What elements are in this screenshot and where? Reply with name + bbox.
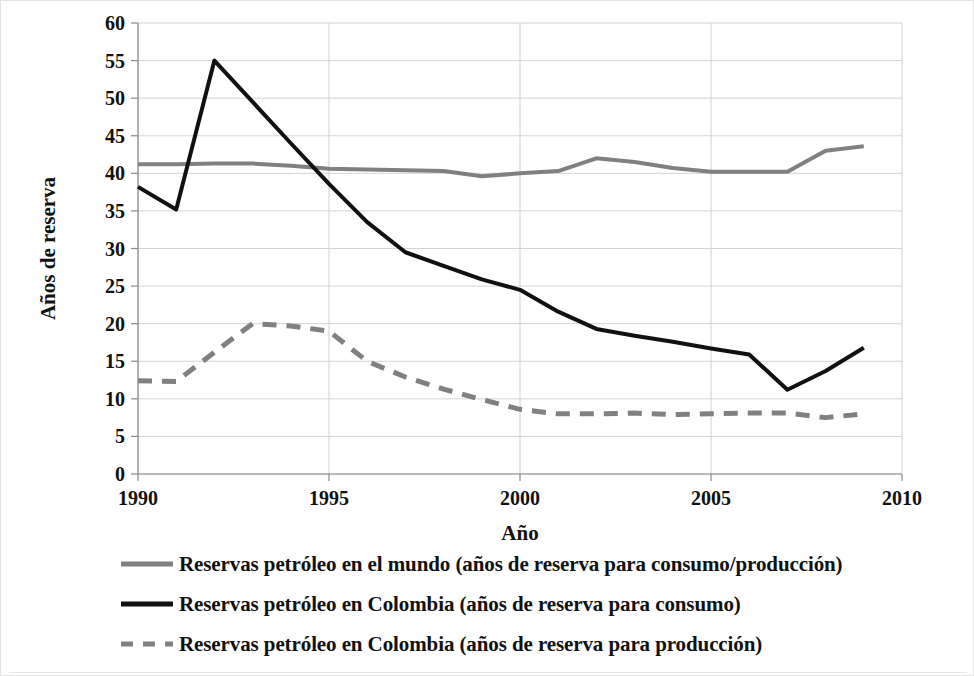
- x-tick-label: 1995: [309, 487, 349, 509]
- x-axis-tick-labels: 19901995200020052010: [118, 487, 922, 509]
- y-tick-label: 5: [115, 425, 125, 447]
- legend-item-colombia-consumo[interactable]: Reservas petróleo en Colombia (años de r…: [119, 584, 974, 624]
- line-chart-svg: 051015202530354045505560 199019952000200…: [1, 1, 974, 546]
- y-tick-label: 50: [105, 87, 125, 109]
- x-tick-label: 2000: [500, 487, 540, 509]
- series-line-0: [138, 146, 864, 176]
- legend-item-colombia-produccion[interactable]: Reservas petróleo en Colombia (años de r…: [119, 624, 974, 664]
- y-tick-label: 40: [105, 162, 125, 184]
- y-tick-label: 10: [105, 388, 125, 410]
- legend-label-colombia-consumo: Reservas petróleo en Colombia (años de r…: [179, 592, 741, 617]
- legend-key-solid-gray-icon: [119, 553, 175, 575]
- footer-divider: [9, 672, 967, 673]
- y-axis-title: Años de reserva: [36, 176, 60, 320]
- legend-key-dashed-gray-icon: [119, 633, 175, 655]
- y-tick-label: 25: [105, 275, 125, 297]
- plot-area: 051015202530354045505560 199019952000200…: [1, 1, 974, 546]
- y-tick-label: 35: [105, 200, 125, 222]
- y-tick-label: 15: [105, 350, 125, 372]
- chart-legend: Reservas petróleo en el mundo (años de r…: [1, 544, 974, 676]
- x-axis-title: Año: [501, 521, 538, 545]
- x-tick-label: 1990: [118, 487, 158, 509]
- y-tick-label: 60: [105, 12, 125, 34]
- y-axis-tick-labels: 051015202530354045505560: [105, 12, 125, 485]
- y-tick-label: 20: [105, 313, 125, 335]
- x-tick-label: 2010: [882, 487, 922, 509]
- series-line-2: [138, 324, 864, 418]
- y-axis-ticks: [131, 23, 138, 474]
- y-tick-label: 45: [105, 125, 125, 147]
- y-tick-label: 30: [105, 238, 125, 260]
- legend-label-colombia-produccion: Reservas petróleo en Colombia (años de r…: [179, 632, 762, 657]
- grid-lines: [138, 23, 902, 474]
- y-tick-label: 55: [105, 50, 125, 72]
- chart-figure: 051015202530354045505560 199019952000200…: [0, 0, 974, 676]
- y-tick-label: 0: [115, 463, 125, 485]
- legend-label-world: Reservas petróleo en el mundo (años de r…: [179, 552, 843, 577]
- legend-item-world[interactable]: Reservas petróleo en el mundo (años de r…: [119, 544, 974, 584]
- legend-key-solid-black-icon: [119, 593, 175, 615]
- x-tick-label: 2005: [691, 487, 731, 509]
- data-series-group: [138, 61, 864, 418]
- x-axis-ticks: [138, 474, 902, 481]
- series-line-1: [138, 61, 864, 390]
